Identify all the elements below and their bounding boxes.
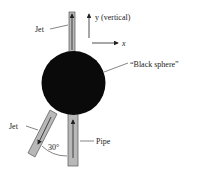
label-pipe: Pipe <box>96 137 111 146</box>
label-jet-top: Jet <box>35 25 45 34</box>
top-jet <box>69 12 75 54</box>
diagram-canvas: Jet y (vertical) x “Black sphere” Jet 30… <box>0 0 201 169</box>
label-sphere: “Black sphere” <box>130 60 179 69</box>
leader-sphere <box>104 63 128 72</box>
pipe <box>68 108 78 166</box>
label-jet-bottom: Jet <box>9 122 19 131</box>
label-angle: 30° <box>48 143 59 152</box>
black-sphere <box>42 51 106 115</box>
leader-jet-top <box>50 25 68 29</box>
label-x-axis: x <box>121 39 126 48</box>
label-y-axis: y (vertical) <box>95 13 131 22</box>
leader-jet-bottom <box>26 126 38 130</box>
